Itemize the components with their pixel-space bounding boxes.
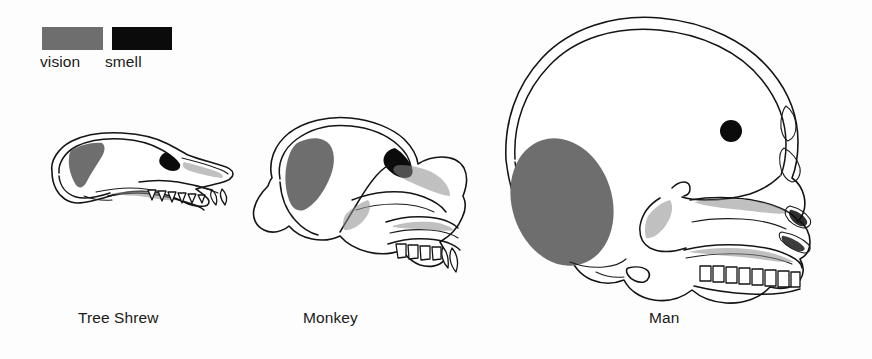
caption-man: Man <box>649 309 679 327</box>
caption-monkey: Monkey <box>303 309 358 327</box>
skull-comparison-figure: vision smell <box>0 0 872 359</box>
human-skull <box>0 0 872 359</box>
smell-region-human <box>720 120 742 142</box>
caption-tree-shrew: Tree Shrew <box>78 309 159 327</box>
